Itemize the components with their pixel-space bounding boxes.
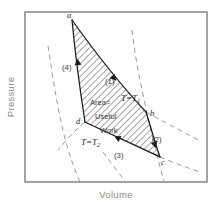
isotherm-hot-label: T=T1 — [121, 93, 140, 104]
process-label-4: (4) — [62, 63, 72, 72]
isotherm-hot-subscript: 1 — [137, 97, 140, 104]
carnot-cycle-figure: a b c d (1) (2) (3) (4) T=T1 T=T2 Area= … — [0, 0, 223, 211]
isotherm-cold-label: T=T2 — [81, 137, 101, 148]
point-label-b: b — [150, 108, 154, 118]
point-label-a: a — [67, 10, 71, 20]
y-axis-label: Pressure — [5, 77, 16, 117]
isotherm-hot-prefix: T=T — [121, 93, 138, 103]
process-label-1: (1) — [105, 77, 115, 86]
process-label-2: (2) — [152, 135, 162, 144]
area-annotation-line3: Work — [100, 126, 118, 135]
x-axis-label: Volume — [99, 189, 133, 200]
area-annotation-line2: Useful — [95, 112, 117, 121]
area-annotation-line1: Area= — [90, 98, 111, 107]
isotherm-cold-subscript: 2 — [97, 141, 101, 148]
isotherm-cold-dashed — [160, 157, 200, 172]
point-label-d: d — [76, 116, 81, 126]
pv-diagram-svg: a b c d (1) (2) (3) (4) T=T1 T=T2 Area= … — [0, 0, 223, 211]
process-label-3: (3) — [114, 151, 124, 160]
isotherm-cold-prefix: T=T — [81, 137, 98, 147]
point-label-c: c — [161, 157, 165, 167]
